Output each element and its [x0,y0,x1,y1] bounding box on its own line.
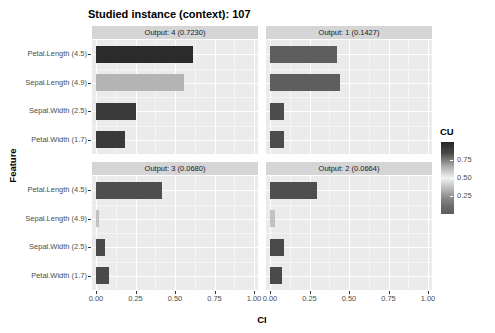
gridline-minor-horizontal [92,126,258,127]
facet-output-2: Output: 2 (0.0664) [266,162,432,290]
page-title: Studied instance (context): 107 [88,8,251,20]
y-axis-tick-mark [88,83,91,84]
x-axis-tick-label: 0.50 [163,295,187,303]
bar [270,46,337,63]
y-axis-tick-mark [88,247,91,248]
legend-tick-mark [450,160,453,161]
gridline-minor-horizontal [92,233,258,234]
y-axis-tick-label: Sepal.Length (4.9) [25,215,87,223]
gridline-major-horizontal [266,276,432,277]
panel-output-4 [92,40,258,154]
x-axis-tick-label: 1.00 [416,295,440,303]
bar [96,74,184,91]
panel-output-1 [266,40,432,154]
y-axis-tick-label: Petal.Width (1.7) [31,272,87,280]
gridline-minor-horizontal [92,205,258,206]
bar [270,267,282,284]
x-axis-tick-label: 0.75 [377,295,401,303]
gridline-minor-horizontal [266,233,432,234]
gridline-major-horizontal [92,276,258,277]
bar [96,267,109,284]
facet-strip-output-3: Output: 3 (0.0680) [92,162,258,175]
y-axis-tick-mark [88,276,91,277]
bar [96,239,105,256]
y-axis-tick-label: Sepal.Width (2.5) [29,107,87,115]
gridline-minor-horizontal [92,97,258,98]
facet-grid: Output: 4 (0.7230)Output: 1 (0.1427)Outp… [92,26,432,290]
legend-tick-label: 0.25 [457,192,472,200]
x-axis-tick-label: 0.00 [84,295,108,303]
gridline-minor-horizontal [92,69,258,70]
gridline-minor-horizontal [266,69,432,70]
legend-tick-label: 0.50 [457,174,472,182]
gridline-minor-horizontal [266,262,432,263]
y-axis-title: Feature [7,136,18,196]
bar [96,46,193,63]
facet-strip-label: Output: 3 (0.0680) [145,165,206,173]
faceted-bar-chart: Studied instance (context): 107 Feature … [0,0,495,333]
legend-title: CU [440,126,454,137]
legend-tick-mark [450,196,453,197]
facet-strip-output-2: Output: 2 (0.0664) [266,162,432,175]
x-axis-tick-label: 0.25 [298,295,322,303]
gridline-minor-horizontal [266,97,432,98]
y-axis-tick-mark [88,54,91,55]
y-axis-tick-label: Sepal.Length (4.9) [25,79,87,87]
bar [96,131,125,148]
bar [270,239,284,256]
legend-tick-label: 0.75 [457,156,472,164]
bar [96,210,99,227]
x-axis-tick-label: 0.75 [203,295,227,303]
gridline-minor-horizontal [266,205,432,206]
bar [96,103,136,120]
x-axis-tick-label: 0.00 [258,295,282,303]
bar [270,103,284,120]
facet-output-4: Output: 4 (0.7230) [92,26,258,154]
gridline-major-horizontal [266,111,432,112]
bar [270,131,284,148]
bar [270,182,317,199]
facet-strip-label: Output: 1 (0.1427) [319,29,380,37]
y-axis-tick-label: Sepal.Width (2.5) [29,243,87,251]
x-axis-tick-label: 0.25 [124,295,148,303]
y-axis-tick-mark [88,219,91,220]
gridline-minor-horizontal [92,262,258,263]
facet-output-3: Output: 3 (0.0680) [92,162,258,290]
facet-strip-label: Output: 2 (0.0664) [319,165,380,173]
facet-strip-output-4: Output: 4 (0.7230) [92,26,258,39]
panel-output-2 [266,176,432,290]
y-axis-tick-label: Petal.Length (4.5) [27,50,87,58]
y-axis-tick-mark [88,111,91,112]
x-axis-tick-label: 0.50 [337,295,361,303]
gridline-minor-horizontal [266,126,432,127]
facet-strip-output-1: Output: 1 (0.1427) [266,26,432,39]
gridline-major-horizontal [266,247,432,248]
gridline-major-horizontal [92,219,258,220]
bar [270,74,340,91]
y-axis-tick-mark [88,190,91,191]
bar [270,210,275,227]
facet-strip-label: Output: 4 (0.7230) [145,29,206,37]
y-axis-tick-mark [88,140,91,141]
gridline-major-horizontal [92,247,258,248]
legend-tick-mark [450,178,453,179]
gridline-major-horizontal [266,219,432,220]
bar [96,182,162,199]
x-axis-title: CI [92,314,432,325]
facet-output-1: Output: 1 (0.1427) [266,26,432,154]
gridline-major-horizontal [266,140,432,141]
y-axis-tick-label: Petal.Length (4.5) [27,186,87,194]
panel-output-3 [92,176,258,290]
y-axis-tick-label: Petal.Width (1.7) [31,136,87,144]
